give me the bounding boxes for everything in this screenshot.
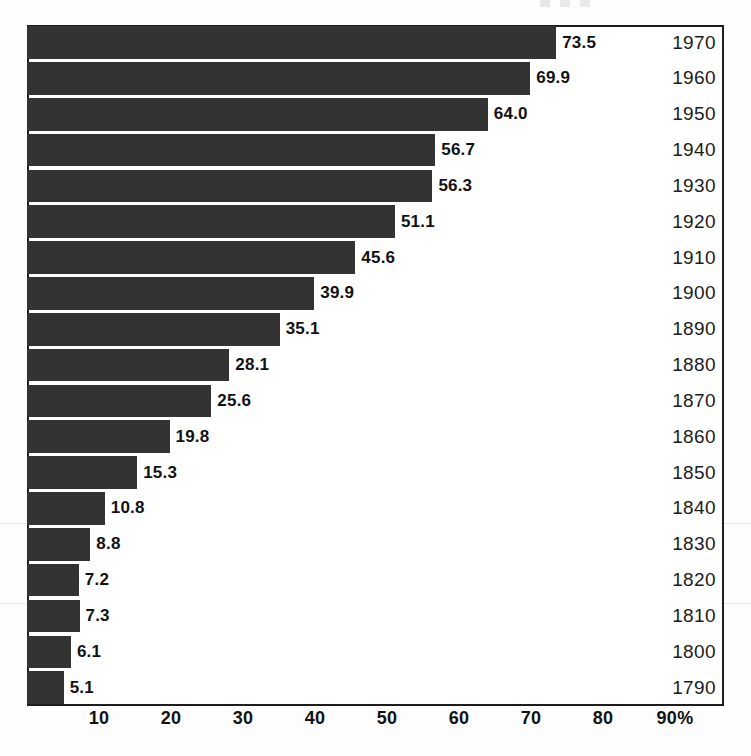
bar-row: 7.21820 xyxy=(27,564,724,597)
bar xyxy=(27,134,435,167)
x-axis: 102030405060708090% xyxy=(27,708,724,742)
bar-value-label: 39.9 xyxy=(320,283,354,303)
bar-year-label: 1820 xyxy=(672,569,716,591)
bar-value-label: 19.8 xyxy=(176,427,210,447)
bar xyxy=(27,492,105,525)
bar-row: 19.81860 xyxy=(27,420,724,453)
bar xyxy=(27,528,90,561)
bar xyxy=(27,98,488,131)
bar-year-label: 1950 xyxy=(672,103,716,125)
bar-year-label: 1890 xyxy=(672,318,716,340)
bar-row: 10.81840 xyxy=(27,492,724,525)
bar-value-label: 73.5 xyxy=(562,33,596,53)
bar-value-label: 5.1 xyxy=(70,678,94,698)
bar-year-label: 1800 xyxy=(672,641,716,663)
bar-year-label: 1790 xyxy=(672,677,716,699)
bar-value-label: 51.1 xyxy=(401,212,435,232)
bar xyxy=(27,420,170,453)
bar-value-label: 7.3 xyxy=(86,606,110,626)
x-tick-label: 30 xyxy=(233,708,254,729)
bar-row: 69.91960 xyxy=(27,62,724,95)
bar-year-label: 1870 xyxy=(672,390,716,412)
bar xyxy=(27,456,137,489)
x-tick-label: 20 xyxy=(161,708,182,729)
bar xyxy=(27,313,280,346)
bar-year-label: 1810 xyxy=(672,605,716,627)
bar-row: 5.11790 xyxy=(27,671,724,704)
bar-row: 7.31810 xyxy=(27,600,724,633)
x-tick-label: 60 xyxy=(449,708,470,729)
bar xyxy=(27,385,211,418)
bar xyxy=(27,26,556,59)
bar-value-label: 8.8 xyxy=(96,534,120,554)
bar-chart-plot: 73.5197069.9196064.0195056.7194056.31930… xyxy=(27,25,724,706)
bar-year-label: 1880 xyxy=(672,354,716,376)
bar-year-label: 1910 xyxy=(672,247,716,269)
bar xyxy=(27,205,395,238)
bar-row: 28.11880 xyxy=(27,349,724,382)
bar-row: 8.81830 xyxy=(27,528,724,561)
bar xyxy=(27,170,432,203)
bar-value-label: 15.3 xyxy=(143,463,177,483)
chart-page: 73.5197069.9196064.0195056.7194056.31930… xyxy=(0,0,751,756)
bar-value-label: 28.1 xyxy=(235,355,269,375)
bar-value-label: 64.0 xyxy=(494,104,528,124)
bar-value-label: 7.2 xyxy=(85,570,109,590)
bar-row: 51.11920 xyxy=(27,205,724,238)
bar xyxy=(27,636,71,669)
bar-row: 35.11890 xyxy=(27,313,724,346)
bar-year-label: 1900 xyxy=(672,282,716,304)
x-tick-label: 80 xyxy=(593,708,614,729)
bar xyxy=(27,62,530,95)
bar-value-label: 69.9 xyxy=(536,68,570,88)
bar-year-label: 1860 xyxy=(672,426,716,448)
bar-row: 64.01950 xyxy=(27,98,724,131)
bar-year-label: 1940 xyxy=(672,139,716,161)
x-tick-label: 90% xyxy=(657,708,694,729)
bar-year-label: 1960 xyxy=(672,67,716,89)
scan-artifact xyxy=(540,0,630,7)
bar-year-label: 1920 xyxy=(672,211,716,233)
bar-value-label: 45.6 xyxy=(361,248,395,268)
x-tick-label: 10 xyxy=(89,708,110,729)
bar xyxy=(27,671,64,704)
bar-value-label: 35.1 xyxy=(286,319,320,339)
bar-value-label: 56.3 xyxy=(438,176,472,196)
bar xyxy=(27,600,80,633)
bar-value-label: 6.1 xyxy=(77,642,101,662)
bar-year-label: 1850 xyxy=(672,462,716,484)
bar-value-label: 25.6 xyxy=(217,391,251,411)
bar xyxy=(27,564,79,597)
bar xyxy=(27,241,355,274)
bar-value-label: 56.7 xyxy=(441,140,475,160)
bar-row: 45.61910 xyxy=(27,241,724,274)
bar-row: 25.61870 xyxy=(27,385,724,418)
bar-row: 39.91900 xyxy=(27,277,724,310)
bar-row: 56.31930 xyxy=(27,170,724,203)
bar-year-label: 1840 xyxy=(672,497,716,519)
bar-row: 15.31850 xyxy=(27,456,724,489)
x-tick-label: 40 xyxy=(305,708,326,729)
bar xyxy=(27,277,314,310)
bar-year-label: 1830 xyxy=(672,533,716,555)
bar-row: 6.11800 xyxy=(27,636,724,669)
bar-year-label: 1970 xyxy=(672,32,716,54)
bar-row: 73.51970 xyxy=(27,26,724,59)
x-tick-label: 50 xyxy=(377,708,398,729)
bar-value-label: 10.8 xyxy=(111,498,145,518)
bar xyxy=(27,349,229,382)
x-tick-label: 70 xyxy=(521,708,542,729)
bar-year-label: 1930 xyxy=(672,175,716,197)
bar-row: 56.71940 xyxy=(27,134,724,167)
